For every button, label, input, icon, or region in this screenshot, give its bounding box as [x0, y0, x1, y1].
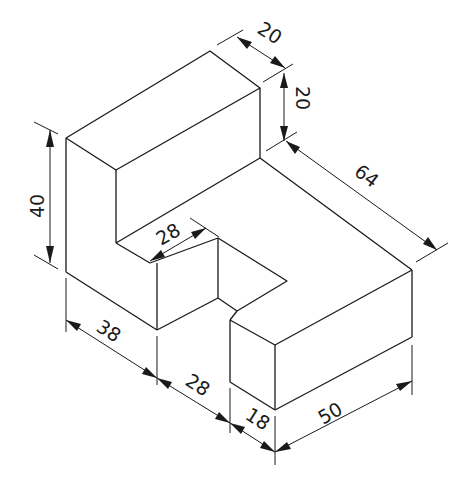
dimension-front-block-length: 50 [275, 381, 412, 452]
dimension-upright-thickness: 20 [237, 17, 286, 68]
dim-label-upright-thickness: 20 [254, 17, 286, 49]
dim-label-front-block-length: 50 [314, 397, 346, 428]
dim-label-step-width: 28 [152, 218, 184, 249]
dim-label-front-block-depth: 18 [242, 403, 274, 435]
dim-label-step-height: 20 [292, 86, 314, 110]
dim-label-left-length: 38 [93, 315, 125, 347]
dimension-left-length: 38 [66, 315, 157, 378]
dim-label-overall-depth: 64 [351, 160, 384, 192]
dimension-overall-depth: 64 [286, 141, 437, 250]
object-outline [66, 51, 412, 410]
dimension-step-width: 28 [150, 218, 206, 261]
dimension-step-height: 20 [280, 73, 314, 141]
dimension-overall-height: 40 [26, 130, 54, 263]
extension-lines [34, 30, 448, 465]
dim-label-overall-height: 40 [26, 194, 48, 218]
dimension-middle-length: 28 [157, 369, 230, 423]
dimension-front-block-depth: 18 [230, 403, 275, 452]
isometric-drawing: 20 20 64 40 28 38 28 [0, 0, 472, 485]
